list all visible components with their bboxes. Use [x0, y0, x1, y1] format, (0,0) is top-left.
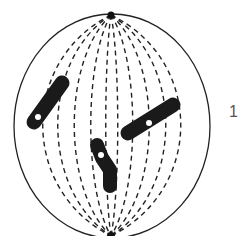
centromere-right [146, 120, 152, 126]
chromosomes [34, 83, 173, 186]
chromosome-center [97, 145, 110, 186]
spindle-fibers [43, 15, 181, 236]
centromere-center [98, 152, 104, 158]
figure-label: 1 [229, 103, 238, 121]
spindle-figure [0, 0, 249, 236]
top-pole [108, 12, 115, 19]
centromere-left [35, 114, 41, 120]
chromosome-right [128, 105, 173, 133]
